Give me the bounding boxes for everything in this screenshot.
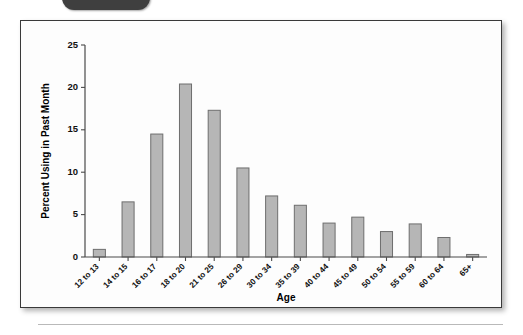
x-axis-title: Age xyxy=(277,292,296,303)
x-tick-label: 55 to 59 xyxy=(389,262,417,290)
x-tick-label: 35 to 39 xyxy=(274,262,302,290)
y-axis-title: Percent Using in Past Month xyxy=(40,83,51,219)
bar-series xyxy=(93,84,478,257)
x-tick-label: 50 to 54 xyxy=(360,262,388,290)
chart-plot-area: 12 to 1314 to 1516 to 1718 to 2021 to 25… xyxy=(21,21,503,309)
bar-50-to-54 xyxy=(380,232,392,257)
x-tick-label: 16 to 17 xyxy=(130,262,158,290)
bar-60-to-64 xyxy=(438,237,450,257)
x-tick-label: 40 to 44 xyxy=(303,262,331,290)
bar-16-to-17 xyxy=(151,134,163,257)
bar-12-to-13 xyxy=(93,249,105,257)
bar-45-to-49 xyxy=(352,217,364,257)
x-tick-label: 26 to 29 xyxy=(216,262,244,290)
bar-21-to-25 xyxy=(208,110,220,257)
y-tick-label: 0 xyxy=(73,251,78,262)
y-axis-tick-labels: 0510152025 xyxy=(67,39,78,262)
y-tick-label: 20 xyxy=(67,81,78,92)
x-tick-label: 65+ xyxy=(458,262,474,278)
bar-chart: 12 to 1314 to 1516 to 1718 to 2021 to 25… xyxy=(21,21,503,309)
figure-frame: 12 to 1314 to 1516 to 1718 to 2021 to 25… xyxy=(20,20,502,308)
bar-40-to-44 xyxy=(323,223,335,257)
bar-26-to-29 xyxy=(237,168,249,257)
x-tick-label: 12 to 13 xyxy=(73,262,101,290)
x-tick-label: 45 to 49 xyxy=(331,262,359,290)
x-tick-label: 18 to 20 xyxy=(159,262,187,290)
bar-35-to-39 xyxy=(294,205,306,257)
y-tick-label: 15 xyxy=(67,123,78,134)
bar-18-to-20 xyxy=(179,84,191,257)
bar-14-to-15 xyxy=(122,202,134,257)
x-tick-label: 60 to 64 xyxy=(417,262,445,290)
page-tab-marker xyxy=(62,0,150,10)
x-axis-tick-labels: 12 to 1314 to 1516 to 1718 to 2021 to 25… xyxy=(73,262,474,290)
bar-30-to-34 xyxy=(266,196,278,257)
y-tick-label: 5 xyxy=(73,208,79,219)
page-divider-rule xyxy=(38,324,503,325)
x-tick-label: 30 to 34 xyxy=(245,262,273,290)
bar-55-to-59 xyxy=(409,224,421,257)
y-tick-label: 25 xyxy=(67,39,78,50)
y-tick-label: 10 xyxy=(67,166,78,177)
x-tick-label: 21 to 25 xyxy=(188,262,216,290)
x-tick-label: 14 to 15 xyxy=(102,262,130,290)
x-axis-ticks xyxy=(99,257,472,261)
